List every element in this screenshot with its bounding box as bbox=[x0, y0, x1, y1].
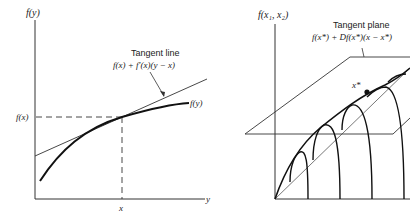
tangent-plane-formula: f(x*) + Df(x*)(x − x*) bbox=[312, 32, 392, 42]
surface-arch-2 bbox=[313, 125, 340, 199]
arrow-head-icon bbox=[160, 91, 165, 97]
right-z-axis-label: f(x₁, x₂) bbox=[258, 9, 289, 21]
left-x-axis-label: y bbox=[205, 194, 210, 204]
right-panel: f(x₁, x₂) Tangent plane f(x*) + Df(x*)(x… bbox=[245, 9, 410, 199]
tangent-line-title: Tangent line bbox=[131, 48, 180, 58]
fx-tick-label: f(x) bbox=[16, 112, 29, 122]
x-tick-label: x bbox=[118, 203, 123, 213]
figure: f(y) y x f(x) f(y) Tangent line f(x) + f… bbox=[0, 0, 410, 221]
point-label: x* bbox=[351, 80, 361, 90]
function-curve bbox=[40, 103, 189, 181]
tangent-line-formula: f(x) + f′(x)(y − x) bbox=[113, 60, 175, 70]
tangent-point-marker bbox=[364, 89, 369, 94]
left-panel: f(y) y x f(x) f(y) Tangent line f(x) + f… bbox=[16, 7, 210, 213]
curve-label: f(y) bbox=[190, 98, 203, 108]
right-diagonal-axis bbox=[275, 68, 410, 199]
tangent-plane-pointer bbox=[362, 48, 364, 57]
tangent-plane-title: Tangent plane bbox=[333, 20, 390, 30]
left-y-axis-label: f(y) bbox=[26, 7, 41, 19]
